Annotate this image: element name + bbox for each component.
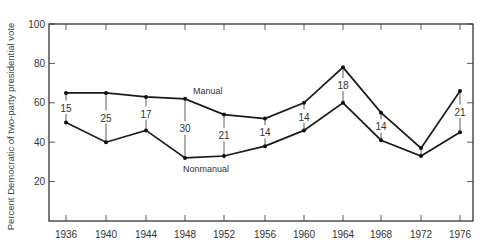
- gap-label: 21: [454, 107, 466, 118]
- x-tick-label: 1944: [135, 229, 158, 240]
- data-point-manual: [183, 97, 187, 101]
- data-point-manual: [458, 89, 462, 93]
- x-tick-label: 1940: [95, 229, 118, 240]
- axes: 2040608010019361940194419481952195619601…: [5, 19, 473, 241]
- data-point-nonmanual: [104, 140, 108, 144]
- x-tick-label: 1952: [213, 229, 236, 240]
- gap-label: 18: [337, 80, 349, 91]
- y-tick-label: 60: [34, 97, 46, 108]
- data-point-manual: [419, 146, 423, 150]
- data-point-manual: [222, 113, 226, 117]
- data-point-manual: [379, 111, 383, 115]
- gap-label: 30: [179, 123, 191, 134]
- gap-label: 14: [298, 112, 310, 123]
- y-axis-label: Percent Democratic of two-party presiden…: [5, 23, 16, 231]
- y-tick-label: 80: [34, 58, 46, 69]
- x-tick-label: 1936: [55, 229, 78, 240]
- data-point-manual: [144, 95, 148, 99]
- x-tick-label: 1964: [332, 229, 355, 240]
- gap-label: 17: [140, 109, 152, 120]
- series-label-nonmanual: Nonmanual: [183, 164, 229, 174]
- data-point-nonmanual: [379, 138, 383, 142]
- gap-label: 21: [218, 130, 230, 141]
- data-point-nonmanual: [222, 154, 226, 158]
- data-point-manual: [104, 91, 108, 95]
- x-tick-label: 1948: [174, 229, 197, 240]
- series-lines: [64, 65, 462, 160]
- data-point-nonmanual: [341, 101, 345, 105]
- y-tick-label: 100: [28, 19, 45, 30]
- data-point-nonmanual: [419, 154, 423, 158]
- gap-label: 14: [259, 127, 271, 138]
- data-point-manual: [263, 117, 267, 121]
- y-tick-label: 40: [34, 137, 46, 148]
- data-point-nonmanual: [263, 144, 267, 148]
- y-tick-label: 20: [34, 176, 46, 187]
- x-tick-label: 1956: [254, 229, 277, 240]
- gap-label: 15: [60, 103, 72, 114]
- series-label-manual: Manual: [193, 86, 223, 96]
- data-point-manual: [302, 101, 306, 105]
- gap-label: 25: [100, 113, 112, 124]
- x-tick-label: 1972: [410, 229, 433, 240]
- gap-label: 14: [375, 121, 387, 132]
- line-chart: 2040608010019361940194419481952195619601…: [0, 0, 488, 246]
- data-point-manual: [341, 65, 345, 69]
- data-point-nonmanual: [302, 128, 306, 132]
- x-tick-label: 1968: [370, 229, 393, 240]
- x-tick-label: 1960: [293, 229, 316, 240]
- data-point-manual: [64, 91, 68, 95]
- data-point-nonmanual: [183, 156, 187, 160]
- data-point-nonmanual: [458, 130, 462, 134]
- gap-lines: 15251730211414181421: [59, 67, 467, 158]
- data-point-nonmanual: [64, 121, 68, 125]
- data-point-nonmanual: [144, 128, 148, 132]
- x-tick-label: 1976: [449, 229, 472, 240]
